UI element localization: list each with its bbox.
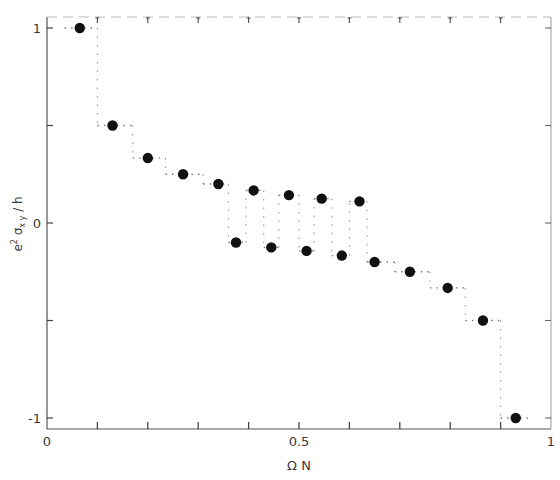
- data-points: [75, 23, 521, 423]
- data-point: [248, 185, 258, 195]
- data-point: [75, 23, 85, 33]
- data-point: [478, 315, 488, 325]
- x-tick-label: 0.5: [289, 434, 310, 449]
- y-tick-label: 0: [33, 216, 41, 231]
- data-point: [354, 196, 364, 206]
- y-axis-title: e2 σx y / h: [10, 196, 27, 251]
- data-point: [266, 242, 276, 252]
- data-point: [442, 283, 452, 293]
- data-point: [301, 246, 311, 256]
- x-tick-label: 0: [43, 434, 51, 449]
- data-point: [213, 179, 223, 189]
- chart: 00.5110-1 Ω N e2 σx y / h: [0, 0, 560, 480]
- y-tick-label: -1: [28, 411, 41, 426]
- data-point: [284, 190, 294, 200]
- x-axis-title: Ω N: [287, 458, 311, 473]
- tick-labels: 00.5110-1: [28, 21, 555, 449]
- data-point: [231, 237, 241, 247]
- data-point: [511, 413, 521, 423]
- data-point: [337, 250, 347, 260]
- step-guides: [65, 28, 531, 418]
- plot-frame: [47, 17, 551, 429]
- data-point: [316, 193, 326, 203]
- data-point: [107, 120, 117, 130]
- y-tick-label: 1: [33, 21, 41, 36]
- data-point: [143, 153, 153, 163]
- x-tick-label: 1: [547, 434, 555, 449]
- axis-ticks: [47, 17, 551, 429]
- data-point: [369, 257, 379, 267]
- data-point: [405, 267, 415, 277]
- data-point: [178, 169, 188, 179]
